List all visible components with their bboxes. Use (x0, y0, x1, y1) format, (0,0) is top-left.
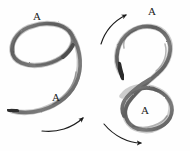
right-knot-free-end (119, 64, 123, 78)
left-knot-underlay (12, 24, 79, 113)
knot-diagram-canvas (0, 0, 190, 151)
knot-diagram-figure: A A A A (0, 0, 190, 151)
left-direction-arrow (42, 118, 83, 131)
left-knot-diagram (9, 24, 83, 132)
right-knot-texture (124, 30, 167, 127)
left-knot-free-end (9, 110, 17, 111)
right-knot-diagram (101, 15, 172, 143)
right-knot-middle-crossing (125, 74, 157, 129)
